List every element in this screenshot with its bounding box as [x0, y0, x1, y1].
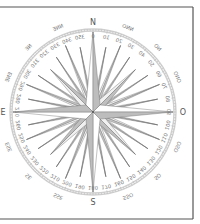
degree-label: 350 — [74, 33, 85, 41]
intercardinal-label: NE — [24, 43, 33, 52]
degree-tick — [149, 170, 150, 171]
wind-star — [13, 32, 173, 192]
cardinal-label-s: S — [90, 198, 95, 207]
star-point-half — [13, 105, 93, 112]
star-point-half — [93, 32, 100, 112]
degree-tick — [141, 45, 142, 46]
degree-tick — [153, 166, 154, 167]
degree-label: 190 — [74, 183, 85, 191]
intercardinal-label: NNE — [52, 23, 65, 33]
intercardinal-label: SSE — [52, 192, 63, 201]
degree-tick — [159, 160, 160, 161]
degree-tick — [26, 160, 27, 161]
intercardinal-label: NO — [153, 42, 163, 52]
degree-tick — [44, 178, 45, 179]
degree-label: 260 — [14, 120, 22, 131]
star-point-half — [93, 112, 100, 192]
degree-tick — [28, 61, 29, 62]
degree-label: 80 — [164, 95, 171, 103]
degree-tick — [157, 162, 158, 163]
degree-label: 170 — [101, 183, 112, 191]
degree-tick — [31, 166, 32, 167]
degree-tick — [153, 56, 154, 57]
degree-tick — [157, 61, 158, 62]
degree-tick — [42, 176, 43, 177]
star-point-half — [13, 112, 93, 119]
degree-tick — [28, 162, 29, 163]
degree-tick — [143, 176, 144, 177]
degree-label: 100 — [164, 120, 172, 131]
degree-tick — [151, 168, 152, 169]
degree-label: 10 — [102, 34, 110, 41]
degree-tick — [26, 63, 27, 64]
degree-tick — [33, 54, 34, 55]
degree-label: 60 — [155, 70, 164, 79]
star-point-half — [86, 32, 93, 112]
center-pin — [92, 111, 94, 113]
compass-rose-figure: 0102030405060708090100110120130140150160… — [0, 0, 200, 224]
degree-tick — [147, 50, 148, 51]
degree-tick — [37, 50, 38, 51]
degree-tick — [151, 54, 152, 55]
degree-tick — [35, 170, 36, 171]
star-point-half — [86, 112, 93, 192]
degree-label: 20 — [115, 37, 123, 45]
intercardinal-label: SO — [153, 172, 162, 181]
degree-label: 70 — [161, 82, 169, 90]
star-point-half — [93, 105, 173, 112]
intercardinal-label: ESE — [4, 141, 13, 152]
intercardinal-label: ONO — [173, 70, 183, 83]
intercardinal-label: ENE — [4, 71, 14, 83]
degree-tick — [143, 47, 144, 48]
degree-tick — [147, 172, 148, 173]
degree-tick — [31, 56, 32, 57]
degree-label: 280 — [14, 93, 22, 104]
degree-tick — [35, 52, 36, 53]
star-point-half — [93, 112, 173, 119]
degree-tick — [159, 63, 160, 64]
intercardinal-label: NNO — [121, 22, 134, 32]
cardinal-label-n: N — [90, 18, 96, 27]
degree-tick — [42, 47, 43, 48]
degree-tick — [33, 168, 34, 169]
degree-tick — [149, 52, 150, 53]
degree-label: 30 — [127, 42, 136, 51]
cardinal-label-o: O — [180, 108, 186, 117]
degree-tick — [44, 45, 45, 46]
degree-tick — [37, 172, 38, 173]
degree-tick — [141, 178, 142, 179]
intercardinal-label: SSO — [122, 192, 134, 202]
compass-rose-svg: 0102030405060708090100110120130140150160… — [0, 0, 200, 224]
intercardinal-label: SE — [24, 172, 33, 181]
intercardinal-label: OSO — [173, 141, 183, 154]
cardinal-label-e: E — [0, 108, 5, 117]
